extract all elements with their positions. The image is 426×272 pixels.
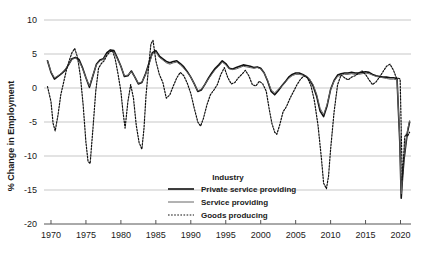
y-tick-label: -5 bbox=[29, 117, 37, 127]
y-tick-label: 0 bbox=[32, 83, 37, 93]
x-tick-label: 2020 bbox=[390, 230, 410, 240]
employment-change-line-chart: 1050-5-10-15-20 197019751980198519901995… bbox=[0, 0, 426, 272]
y-axis-label: % Change in Employment bbox=[6, 81, 16, 192]
x-tick-label: 2015 bbox=[356, 230, 376, 240]
y-tick-label: -10 bbox=[24, 151, 37, 161]
x-tick-label: 1975 bbox=[76, 230, 96, 240]
legend-label: Goods producing bbox=[201, 211, 268, 220]
legend-label: Service providing bbox=[201, 198, 268, 207]
y-tick-label: -15 bbox=[24, 185, 37, 195]
x-tick-label: 2005 bbox=[286, 230, 306, 240]
x-tick-label: 1980 bbox=[111, 230, 131, 240]
y-tick-label: -20 bbox=[24, 219, 37, 229]
x-tick-label: 1970 bbox=[41, 230, 61, 240]
y-tick-label: 10 bbox=[27, 15, 37, 25]
x-tick-label: 2000 bbox=[251, 230, 271, 240]
x-tick-label: 1990 bbox=[181, 230, 201, 240]
chart-container: 1050-5-10-15-20 197019751980198519901995… bbox=[0, 0, 426, 272]
legend-label: Private service providing bbox=[201, 185, 296, 194]
x-tick-label: 1985 bbox=[146, 230, 166, 240]
x-tick-label: 2010 bbox=[321, 230, 341, 240]
y-tick-label: 5 bbox=[32, 49, 37, 59]
legend-title: Industry bbox=[212, 173, 244, 182]
x-tick-label: 1995 bbox=[216, 230, 236, 240]
